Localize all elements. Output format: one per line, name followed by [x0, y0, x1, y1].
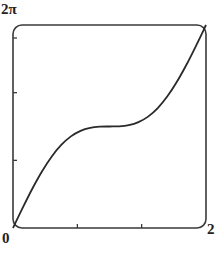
plot-area — [0, 0, 221, 261]
y-axis-max-label: 2π — [1, 2, 17, 17]
data-curve — [13, 25, 206, 228]
x-axis-min-label: 0 — [2, 231, 10, 246]
x-axis-max-label: 2 — [207, 222, 215, 237]
